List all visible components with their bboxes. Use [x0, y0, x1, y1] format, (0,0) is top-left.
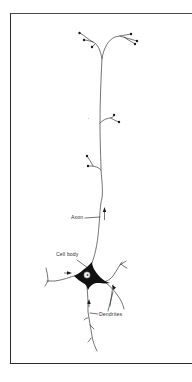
dendrites-leader-line-right — [108, 292, 113, 311]
axon-label: Axon — [71, 215, 83, 220]
synaptic-terminals — [78, 32, 138, 167]
cell-body — [74, 262, 110, 290]
axon-terminal-branch — [102, 34, 131, 58]
axon-terminal-branch — [80, 33, 102, 58]
axon-collateral — [88, 166, 101, 170]
dendrites-leader-line — [90, 313, 98, 314]
axon-collateral — [100, 115, 114, 123]
neuron-diagram — [0, 0, 192, 382]
dendrites-label: Dendrites — [99, 312, 122, 317]
dendrite-left — [47, 275, 77, 281]
axon-leader-line — [85, 217, 100, 218]
cell-body-label: Cell body — [56, 252, 79, 257]
axon — [92, 58, 102, 263]
cell-body-leader-line — [77, 260, 88, 268]
